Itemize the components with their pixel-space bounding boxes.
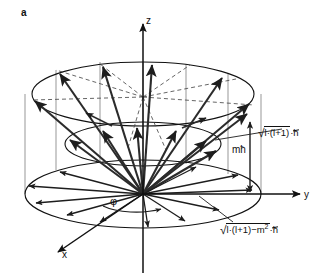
perpendicular-formula-label: √l·(l+1)−m2 ·ħ <box>220 223 278 236</box>
magnitude-formula-label: √l·(l+1) ·ħ <box>258 126 299 139</box>
perpendicular-hbar-factor: ħ <box>273 225 278 235</box>
magnitude-hbar-factor: ħ <box>293 128 298 138</box>
panel-label: a <box>21 8 27 18</box>
perpendicular-radicand-exponent: 2 <box>265 223 269 230</box>
perpendicular-leader-line <box>199 196 233 222</box>
z-projection-text: mħ <box>232 144 246 155</box>
z-axis-label: z <box>146 16 151 26</box>
phi-angle-label: φ <box>110 196 117 207</box>
perpendicular-radicand-base: l·(l+1)−m <box>227 224 265 235</box>
perpendicular-radicand: l·(l+1)−m2 <box>226 223 270 235</box>
y-axis-label: y <box>304 190 309 200</box>
x-axis-label: x <box>62 250 67 260</box>
angular-momentum-figure: a z y x φ mħ √l·(l+1) ·ħ √l·(l+1)−m2 ·ħ <box>0 0 325 273</box>
magnitude-radicand: l·(l+1) <box>264 126 291 138</box>
z-projection-label: mħ <box>232 145 246 155</box>
x-axis <box>58 194 143 252</box>
